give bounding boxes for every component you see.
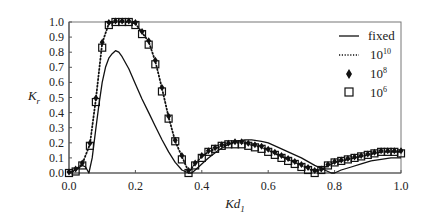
chart-figure: 0.00.10.20.30.40.50.60.70.80.91.0 0.00.2… [0, 0, 431, 217]
legend-item-1e10: 1010 [339, 47, 391, 62]
y-tick-label: 0.2 [49, 136, 64, 150]
y-tick-label: 0.0 [49, 166, 64, 180]
svg-text:106: 106 [370, 85, 387, 100]
x-tick-label: 0.2 [128, 179, 143, 193]
y-tick-label: 0.9 [49, 30, 64, 44]
svg-text:1010: 1010 [370, 47, 391, 62]
svg-text:fixed: fixed [368, 28, 395, 43]
square-marker-icon [345, 88, 353, 96]
y-tick-label: 0.6 [49, 75, 64, 89]
x-tick-label: 0.8 [327, 179, 342, 193]
x-tick-label: 0.4 [194, 179, 209, 193]
x-tick-label: 0.6 [261, 179, 276, 193]
y-tick-label: 0.4 [49, 106, 64, 120]
series-10e6 [66, 19, 405, 177]
svg-text:108: 108 [370, 66, 387, 81]
series-10e10 [69, 22, 401, 173]
y-tick-label: 0.8 [49, 45, 64, 59]
y-tick-label: 0.7 [49, 60, 64, 74]
plot-frame [69, 22, 401, 173]
y-tick-label: 1.0 [49, 15, 64, 29]
x-axis-title: Kd1 [224, 196, 245, 214]
series-layer [66, 18, 405, 177]
x-tick-label: 0.0 [62, 179, 77, 193]
x-tick-label: 1.0 [394, 179, 409, 193]
y-tick-label: 0.3 [49, 121, 64, 135]
legend-item-1e6: 106 [345, 85, 387, 100]
legend-item-1e8: 108 [346, 66, 387, 81]
y-axis-title: Kr [27, 88, 41, 106]
diamond-marker-icon [346, 69, 352, 79]
y-tick-label: 0.1 [49, 151, 64, 165]
y-tick-label: 0.5 [49, 91, 64, 105]
legend: fixed 1010 108 106 [339, 28, 395, 100]
plot-border [69, 22, 401, 173]
legend-item-fixed: fixed [339, 28, 395, 43]
